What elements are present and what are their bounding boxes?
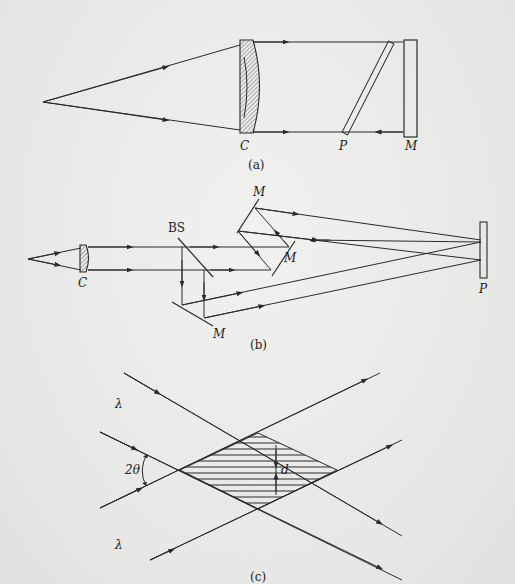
mirror-m: [404, 40, 417, 137]
label-m: M: [404, 139, 418, 153]
angle-arc: [142, 454, 147, 486]
label-m-top: M: [252, 185, 266, 199]
plate-p: [342, 41, 394, 135]
label-2theta: 2θ: [124, 463, 141, 477]
mirror-bottom-m: [172, 302, 213, 326]
caption-a: (a): [248, 158, 265, 172]
optics-figures: C P M (a) C BS: [0, 0, 515, 584]
collimating-lens-c: [80, 245, 89, 272]
label-d: d: [281, 463, 289, 477]
label-lambda-bottom: λ: [114, 538, 123, 552]
collimating-lens-c: [240, 40, 260, 133]
label-bs: BS: [168, 221, 185, 235]
figure-a: C P M (a): [43, 40, 418, 172]
beam-splitter-bs: [178, 238, 213, 277]
caption-c: (c): [250, 570, 266, 584]
label-p: P: [338, 139, 348, 153]
figure-c: d 2θ λ λ (c): [100, 373, 402, 584]
label-p: P: [478, 282, 488, 296]
scanned-page: C P M (a) C BS: [0, 0, 515, 584]
plate-p: [480, 222, 487, 278]
label-c: C: [240, 139, 249, 153]
label-c: C: [78, 276, 87, 290]
interference-fringes: [170, 437, 350, 503]
label-m-bottom: M: [212, 327, 226, 341]
caption-b: (b): [250, 338, 267, 352]
label-m-right: M: [283, 251, 297, 265]
figure-b: C BS M M: [28, 185, 488, 352]
mirror-top-m: [237, 199, 259, 233]
label-lambda-top: λ: [114, 397, 123, 411]
